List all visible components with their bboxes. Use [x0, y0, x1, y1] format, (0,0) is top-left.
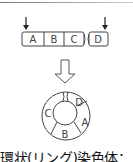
ring-label-c: C — [45, 108, 52, 119]
segment-label-d: D — [94, 34, 102, 45]
segment-label-a: A — [30, 34, 37, 45]
segment-label-c: C — [71, 34, 78, 45]
ring-label-a: A — [82, 117, 89, 128]
diagram-caption: 環状(リング)染色体： — [0, 150, 133, 162]
ring-label-d: D — [75, 97, 83, 108]
ring-chromosome-diagram: A B C D C D A B — [0, 0, 133, 162]
hollow-down-arrow-icon — [55, 60, 75, 83]
break-arrow-right-icon — [102, 17, 108, 30]
break-arrow-left-icon — [23, 17, 29, 30]
ring-label-b: B — [62, 129, 69, 140]
segment-label-b: B — [51, 34, 58, 45]
